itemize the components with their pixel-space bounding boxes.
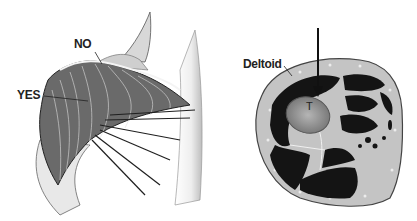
label-deltoid: Deltoid <box>243 57 282 71</box>
arm-cross-section <box>256 28 403 206</box>
shoulder-illustration <box>36 12 202 215</box>
anatomy-illustration <box>0 0 417 221</box>
label-t: T <box>306 100 312 112</box>
label-yes: YES <box>17 88 40 102</box>
label-no: NO <box>74 37 91 51</box>
